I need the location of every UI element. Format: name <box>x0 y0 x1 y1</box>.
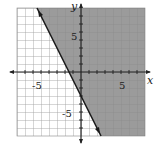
y-axis-label: y <box>70 0 78 13</box>
x-axis-label: x <box>147 74 154 87</box>
x-tick-label-pos5: 5 <box>119 80 125 91</box>
y-axis-arrow-up-icon <box>79 3 83 8</box>
y-tick-label-neg5: -5 <box>62 108 72 119</box>
inequality-graph: x y -5 5 5 -5 <box>0 0 157 151</box>
y-tick-label-pos5: 5 <box>71 31 77 42</box>
y-axis-arrow-down-icon <box>79 139 83 144</box>
x-tick-label-neg5: -5 <box>32 80 42 91</box>
x-axis-arrow-left-icon <box>9 70 14 74</box>
